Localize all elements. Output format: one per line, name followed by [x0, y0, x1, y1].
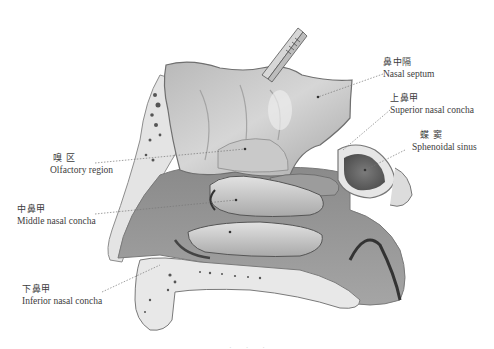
label-en: Nasal septum: [383, 68, 434, 80]
label-zh: 上鼻甲: [390, 92, 474, 104]
label-en: Middle nasal concha: [17, 215, 96, 227]
label-olfactory-region: 嗅 区 Olfactory region: [50, 152, 113, 176]
label-sphenoidal-sinus: 蝶 窦 Sphenoidal sinus: [412, 129, 477, 153]
label-en: Olfactory region: [50, 164, 113, 176]
label-zh: 蝶 窦: [412, 129, 477, 141]
label-superior-nasal-concha: 上鼻甲 Superior nasal concha: [390, 92, 474, 116]
label-en: Superior nasal concha: [390, 104, 474, 116]
figure-caption: · · ·: [200, 343, 300, 349]
label-zh: 鼻中隔: [383, 56, 434, 68]
label-zh: 下鼻甲: [22, 283, 102, 295]
label-en: Sphenoidal sinus: [412, 141, 477, 153]
label-nasal-septum: 鼻中隔 Nasal septum: [383, 56, 434, 80]
label-middle-nasal-concha: 中鼻甲 Middle nasal concha: [17, 203, 96, 227]
label-zh: 嗅 区: [50, 152, 113, 164]
label-inferior-nasal-concha: 下鼻甲 Inferior nasal concha: [22, 283, 102, 307]
inferior-concha-shape: [188, 222, 322, 257]
label-zh: 中鼻甲: [17, 203, 96, 215]
label-en: Inferior nasal concha: [22, 295, 102, 307]
